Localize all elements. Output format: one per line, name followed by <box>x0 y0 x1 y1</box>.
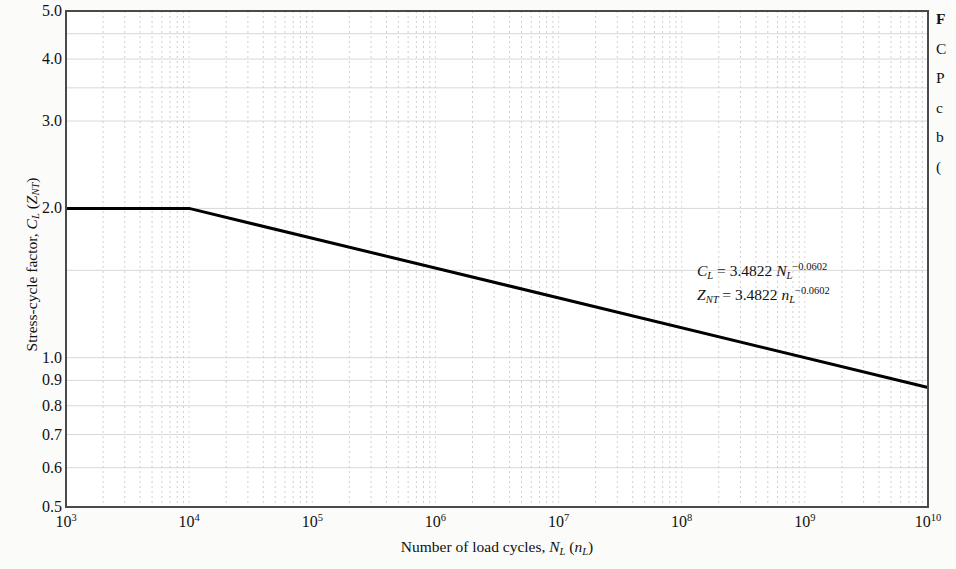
eq1-exponent: −0.0602 <box>792 261 827 272</box>
x-tick-exponent: 7 <box>564 512 569 523</box>
y-tick-label-0.5: 0.5 <box>6 499 62 515</box>
caption-line-1: F <box>936 4 956 34</box>
y-axis-title: Stress-cycle factor, CL (ZNT) <box>23 114 42 414</box>
y-tick-label-4.0: 4.0 <box>6 51 62 67</box>
eq1-var: C <box>697 262 707 279</box>
caption-line-2: C <box>936 34 956 64</box>
x-axis-title-text: Number of load cycles, <box>401 538 550 555</box>
y-tick-label-0.7: 0.7 <box>6 427 62 443</box>
x-tick-exponent: 4 <box>195 512 200 523</box>
x-tick-label-1e4: 104 <box>179 513 200 530</box>
equation-annotation-ZNT: ZNT = 3.4822 nL−0.0602 <box>697 283 830 307</box>
x-tick-base: 10 <box>915 513 931 530</box>
x-tick-exponent: 9 <box>810 512 815 523</box>
eq2-var: Z <box>697 286 706 303</box>
x-tick-label-1e8: 108 <box>671 513 692 530</box>
y-axis-var-Z: Z <box>23 196 40 205</box>
y-axis-var-C: C <box>23 219 40 229</box>
eq1-equals: = 3.4822 <box>713 262 776 279</box>
x-tick-label-1e3: 103 <box>55 513 76 530</box>
x-tick-base: 10 <box>302 513 318 530</box>
caption-line-4: c <box>936 93 956 123</box>
figure-container: 5.04.03.02.01.00.90.80.70.60.5 103104105… <box>0 0 956 569</box>
x-tick-label-1e5: 105 <box>302 513 323 530</box>
eq2-exponent: −0.0602 <box>795 285 830 296</box>
figure-caption: F C P c b ( <box>936 4 956 181</box>
equation-annotation-CL: CL = 3.4822 NL−0.0602 <box>697 259 827 283</box>
x-axis-var-N: N <box>549 538 559 555</box>
x-axis-paren-close: ) <box>588 538 593 555</box>
x-tick-label-1e10: 1010 <box>915 513 942 530</box>
y-axis-var-C-sub: L <box>30 213 41 219</box>
x-tick-base: 10 <box>179 513 195 530</box>
x-axis-title: Number of load cycles, NL (nL) <box>66 538 928 557</box>
y-axis-paren-close: ) <box>23 178 40 183</box>
x-tick-base: 10 <box>55 513 71 530</box>
eq2-equals: = 3.4822 <box>718 286 781 303</box>
eq2-var-sub: NT <box>706 294 719 305</box>
x-tick-exponent: 5 <box>318 512 323 523</box>
x-tick-base: 10 <box>671 513 687 530</box>
x-tick-base: 10 <box>548 513 564 530</box>
y-axis-var-Z-sub: NT <box>30 183 41 196</box>
x-tick-label-1e6: 106 <box>425 513 446 530</box>
x-tick-exponent: 3 <box>71 512 76 523</box>
caption-line-3: P <box>936 63 956 93</box>
x-tick-exponent: 6 <box>441 512 446 523</box>
caption-line-6: ( <box>936 152 956 182</box>
x-tick-label-1e9: 109 <box>794 513 815 530</box>
x-tick-exponent: 8 <box>687 512 692 523</box>
y-tick-label-5.0: 5.0 <box>6 3 62 19</box>
x-tick-base: 10 <box>425 513 441 530</box>
y-axis-title-text: Stress-cycle factor, <box>23 229 40 351</box>
x-tick-exponent: 10 <box>931 512 942 523</box>
y-tick-label-0.6: 0.6 <box>6 460 62 476</box>
x-tick-label-1e7: 107 <box>548 513 569 530</box>
eq1-base: N <box>776 262 786 279</box>
y-axis-paren-open: ( <box>23 204 40 213</box>
caption-line-5: b <box>936 122 956 152</box>
x-tick-base: 10 <box>794 513 810 530</box>
